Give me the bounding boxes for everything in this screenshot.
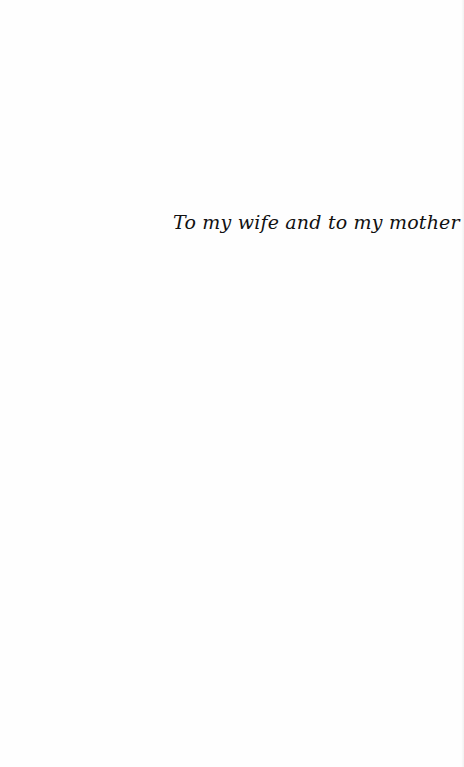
book-page: To my wife and to my mother	[0, 0, 464, 767]
dedication-text: To my wife and to my mother	[173, 211, 460, 233]
